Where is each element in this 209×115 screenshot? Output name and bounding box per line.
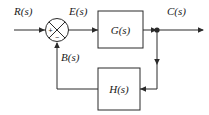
label-error-signal: E(s): [68, 5, 88, 18]
arrowhead-sum-to-g: [92, 27, 98, 33]
arrowhead-output: [198, 27, 204, 33]
block-diagram-canvas: + − G(s) H(s) R(s) E(s) C(s) B(s): [0, 0, 209, 115]
block-h-label: H(s): [108, 83, 129, 96]
arrowhead-into-h: [140, 86, 146, 92]
arrowhead-feedback-to-sum: [54, 42, 60, 48]
sum-feedback-sign: −: [55, 34, 59, 41]
block-g-label: G(s): [111, 24, 131, 37]
label-input-signal: R(s): [13, 5, 33, 18]
block-diagram-svg: + − G(s) H(s) R(s) E(s) C(s) B(s): [0, 0, 209, 115]
sum-input-sign: +: [48, 27, 52, 34]
arrowhead-down-branch: [154, 59, 160, 65]
arrowhead-input-to-sum: [39, 27, 45, 33]
label-feedback-signal: B(s): [61, 51, 80, 64]
label-output-signal: C(s): [167, 5, 186, 18]
